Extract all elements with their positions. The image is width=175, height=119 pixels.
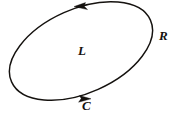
figure-canvas: L R C (0, 0, 175, 119)
exterior-region-label-R: R (159, 29, 168, 42)
interior-region-label-L: L (78, 44, 86, 57)
curve-label-C: C (82, 99, 91, 112)
